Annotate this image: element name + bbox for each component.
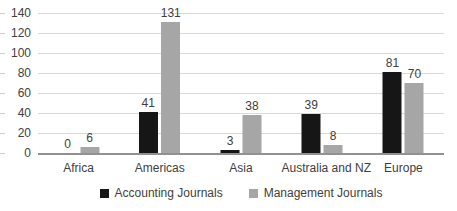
bar-accounting-asia <box>220 150 239 153</box>
y-tick-mark-20 <box>0 133 5 134</box>
category-slot: 398 <box>282 13 363 153</box>
bar-group: 398 <box>302 99 343 153</box>
bar-value-label: 41 <box>142 97 155 110</box>
category-label: Asia <box>200 161 281 176</box>
bar-management-americas <box>161 22 180 153</box>
bar-column: 6 <box>80 132 99 153</box>
bar-value-label: 70 <box>408 68 421 81</box>
category-label: Australia and NZ <box>282 161 363 176</box>
bar-column: 0 <box>58 138 77 153</box>
bar-management-asia <box>242 115 261 153</box>
y-tick-mark-40 <box>0 113 5 114</box>
category-label: Americas <box>119 161 200 176</box>
bar-column: 81 <box>383 57 402 153</box>
bar-value-label: 81 <box>386 57 399 70</box>
legend: Accounting Journals Management Journals <box>38 186 444 200</box>
bar-column: 39 <box>302 99 321 153</box>
category-slot: 06 <box>38 13 119 153</box>
x-axis-line <box>38 153 444 155</box>
bar-value-label: 131 <box>161 7 181 20</box>
y-tick-mark-140 <box>0 13 5 14</box>
accounting-legend-label: Accounting Journals <box>115 186 223 200</box>
category-slot: 338 <box>200 13 281 153</box>
bar-value-label: 3 <box>227 135 234 148</box>
bar-column: 41 <box>139 97 158 153</box>
plot-area: 06411313383988170 <box>38 13 444 153</box>
bar-accounting-australia-and-nz <box>302 114 321 153</box>
bar-value-label: 6 <box>86 132 93 145</box>
gridline-120 <box>38 33 444 34</box>
management-legend-marker <box>249 189 258 198</box>
bar-management-australia-and-nz <box>324 145 343 153</box>
bar-chart: 06411313383988170 Accounting Journals Ma… <box>0 0 457 211</box>
y-tick-mark-80 <box>0 73 5 74</box>
bar-column: 38 <box>242 100 261 153</box>
category-label: Europe <box>363 161 444 176</box>
gridline-100 <box>38 53 444 54</box>
gridline-140 <box>38 13 444 14</box>
bar-group: 06 <box>58 132 99 153</box>
category-slot: 41131 <box>119 13 200 153</box>
accounting-legend-marker <box>100 189 109 198</box>
bar-management-africa <box>80 147 99 153</box>
bar-column: 131 <box>161 7 181 153</box>
bar-accounting-americas <box>139 112 158 153</box>
bar-accounting-europe <box>383 72 402 153</box>
y-tick-mark-100 <box>0 53 5 54</box>
management-legend-label: Management Journals <box>264 186 383 200</box>
y-tick-mark-0 <box>0 153 5 154</box>
bar-value-label: 39 <box>305 99 318 112</box>
legend-item-accounting: Accounting Journals <box>100 186 223 200</box>
bar-value-label: 8 <box>330 130 337 143</box>
bar-group: 338 <box>220 100 261 153</box>
bar-column: 70 <box>405 68 424 153</box>
y-tick-mark-60 <box>0 93 5 94</box>
bar-column: 3 <box>220 135 239 153</box>
category-slot: 8170 <box>363 13 444 153</box>
bar-column: 8 <box>324 130 343 153</box>
bar-group: 41131 <box>139 7 181 153</box>
bar-value-label: 0 <box>64 138 71 151</box>
y-tick-mark-120 <box>0 33 5 34</box>
legend-item-management: Management Journals <box>249 186 383 200</box>
bar-value-label: 38 <box>245 100 258 113</box>
bar-group: 8170 <box>383 57 424 153</box>
bar-management-europe <box>405 83 424 153</box>
category-label: Africa <box>38 161 119 176</box>
